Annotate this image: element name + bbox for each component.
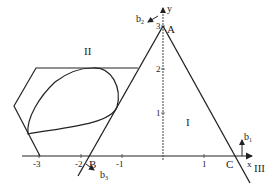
x-tick-neg1: -1 bbox=[116, 159, 124, 169]
region-1-label: I bbox=[186, 116, 190, 128]
line-ac bbox=[163, 26, 250, 183]
point-a-label: A bbox=[167, 23, 175, 35]
ellipse bbox=[28, 68, 118, 134]
geometry-diagram: y x 3 2 1 -3 -2 -1 1 A B C b1 b2 b3 I II… bbox=[0, 0, 276, 192]
x-tick-neg2: -2 bbox=[75, 159, 83, 169]
y-tick-1: 1 bbox=[156, 108, 161, 118]
x-tick-neg3: -3 bbox=[33, 159, 41, 169]
vector-b2-label: b2 bbox=[136, 13, 144, 25]
region-3-label: III bbox=[254, 162, 265, 174]
region-2-label: II bbox=[84, 45, 92, 57]
y-tick-3: 3 bbox=[156, 21, 161, 31]
y-axis-label: y bbox=[167, 3, 172, 14]
x-tick-1: 1 bbox=[202, 159, 207, 169]
point-c-label: C bbox=[226, 158, 233, 170]
vector-b1-label: b1 bbox=[244, 131, 252, 143]
point-b-label: B bbox=[89, 158, 96, 170]
x-axis-label: x bbox=[247, 159, 252, 169]
vector-b3-label: b3 bbox=[100, 169, 108, 181]
y-tick-2: 2 bbox=[156, 64, 161, 74]
